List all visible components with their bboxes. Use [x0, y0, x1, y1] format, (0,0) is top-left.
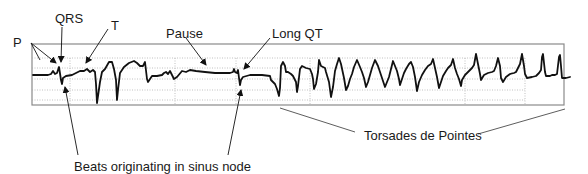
label-sinus-beats: Beats originating in sinus node	[74, 160, 251, 173]
label-long-qt: Long QT	[272, 27, 323, 40]
label-pause: Pause	[166, 27, 203, 40]
label-p: P	[13, 36, 22, 49]
label-qrs: QRS	[55, 12, 83, 25]
label-t: T	[111, 19, 119, 32]
label-torsades: Torsades de Pointes	[364, 129, 482, 142]
